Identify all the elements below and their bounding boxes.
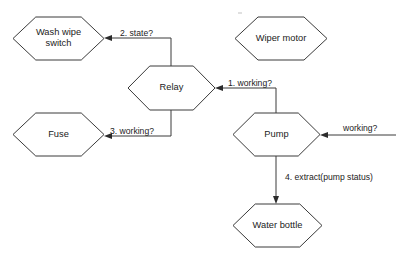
node-fuse[interactable] [13,113,104,156]
arrowhead-icon [104,133,112,139]
arrowhead-icon [320,132,328,138]
arrowhead-icon [104,35,112,41]
edge-pump-to-water-bottle [273,156,279,204]
flowchart-diagram: Wash wipe switch Wiper motor Relay Fuse … [0,0,402,260]
edge-relay-to-wash-wipe-switch [104,35,171,66]
edge-line [110,110,171,136]
edge-pump-to-relay [215,85,276,113]
edge-relay-to-fuse [104,110,171,139]
node-water-bottle[interactable] [233,204,322,247]
scan-speck [238,12,242,14]
edge-line [110,38,171,66]
edge-line [221,88,276,113]
arrowhead-icon [273,196,279,204]
arrowhead-icon [215,85,223,91]
diagram-canvas [0,0,402,260]
node-pump[interactable] [233,113,320,156]
node-relay[interactable] [128,66,215,110]
node-wash-wipe-switch[interactable] [13,17,104,60]
edge-external-to-pump [320,132,396,138]
node-wiper-motor[interactable] [235,17,327,60]
